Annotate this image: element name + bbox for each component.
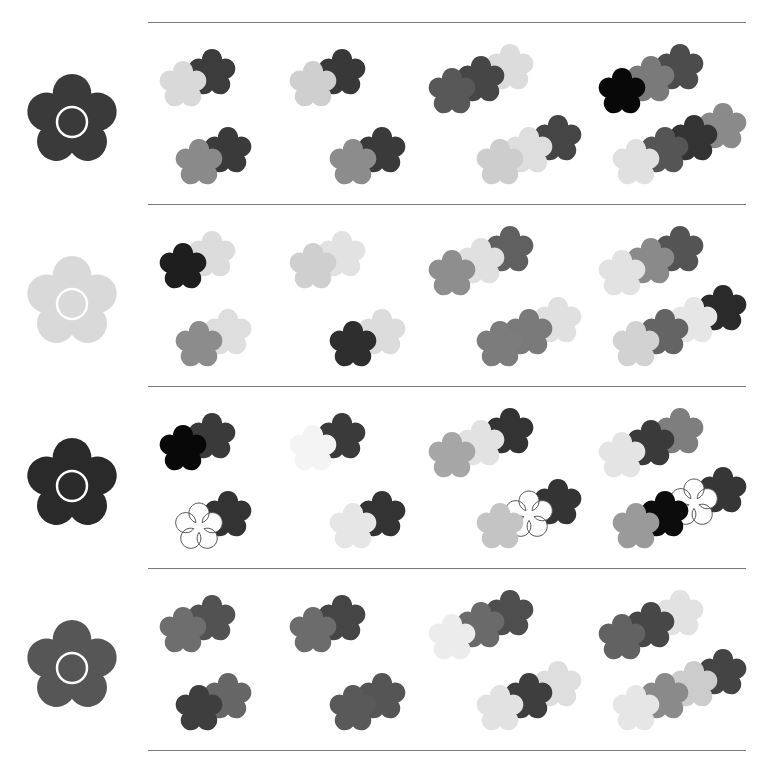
flower-group-8[interactable] xyxy=(613,103,747,184)
flower-group-4[interactable] xyxy=(330,127,406,184)
reference-flower-body xyxy=(27,74,116,161)
flower-group-3[interactable] xyxy=(290,413,366,470)
flower-group-5[interactable] xyxy=(429,408,534,477)
reference-flower xyxy=(27,74,116,161)
flower-group-6[interactable] xyxy=(477,479,582,548)
puzzle-row-3 xyxy=(27,408,746,548)
flower-group-1[interactable] xyxy=(160,413,236,470)
flower-group-4[interactable] xyxy=(330,491,406,548)
flower-group-4[interactable] xyxy=(330,309,406,366)
reference-flower-body xyxy=(27,256,116,343)
reference-flower xyxy=(27,438,116,525)
flower-group-8[interactable] xyxy=(613,285,747,366)
flower-group-7[interactable] xyxy=(599,44,704,113)
flower-group-8[interactable] xyxy=(613,649,747,730)
flower-group-2[interactable] xyxy=(176,491,252,548)
flower-group-3[interactable] xyxy=(290,231,366,288)
reference-flower xyxy=(27,256,116,343)
puzzle-row-4 xyxy=(27,590,746,730)
worksheet xyxy=(0,0,784,771)
flower-group-8[interactable] xyxy=(613,467,747,548)
reference-flower xyxy=(27,620,116,707)
flower-group-5[interactable] xyxy=(429,44,534,113)
flower-group-6[interactable] xyxy=(477,115,582,184)
flower-group-3[interactable] xyxy=(290,595,366,652)
flower-group-7[interactable] xyxy=(599,408,704,477)
flower-group-6[interactable] xyxy=(477,297,582,366)
flower-group-7[interactable] xyxy=(599,590,704,659)
flower-group-1[interactable] xyxy=(160,231,236,288)
puzzle-row-2 xyxy=(27,226,746,366)
flower-group-3[interactable] xyxy=(290,49,366,106)
flower-group-7[interactable] xyxy=(599,226,704,295)
puzzle-row-1 xyxy=(27,44,746,184)
flower-group-4[interactable] xyxy=(330,673,406,730)
flower-group-2[interactable] xyxy=(176,127,252,184)
flower-group-5[interactable] xyxy=(429,226,534,295)
flower-group-6[interactable] xyxy=(477,661,582,730)
flower-group-1[interactable] xyxy=(160,49,236,106)
reference-flower-body xyxy=(27,438,116,525)
flower-canvas xyxy=(0,0,784,771)
flower-group-1[interactable] xyxy=(160,595,236,652)
flower-group-2[interactable] xyxy=(176,673,252,730)
reference-flower-body xyxy=(27,620,116,707)
flower-group-2[interactable] xyxy=(176,309,252,366)
flower-group-5[interactable] xyxy=(429,590,534,659)
